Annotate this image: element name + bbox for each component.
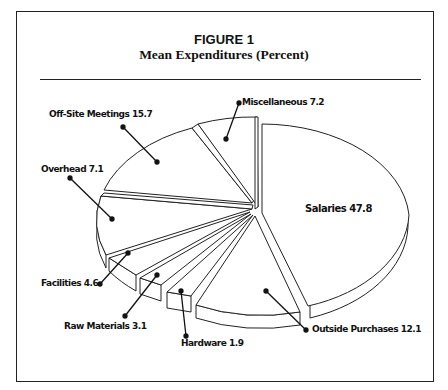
label-outside-purchases: Outside Purchases 12.1 (312, 324, 421, 334)
label-overhead: Overhead 7.1 (41, 164, 103, 174)
label-salaries: Salaries 47.8 (305, 203, 372, 214)
label-hardware: Hardware 1.9 (181, 338, 244, 348)
label-raw-materials: Raw Materials 3.1 (64, 321, 147, 331)
label-facilities: Facilities 4.6 (41, 278, 98, 288)
label-offsite-meetings: Off-Site Meetings 15.7 (49, 109, 152, 119)
label-miscellaneous: Miscellaneous 7.2 (242, 97, 324, 107)
